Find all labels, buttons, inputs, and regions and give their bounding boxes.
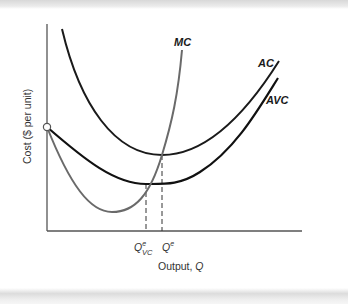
qe-tick-label: Qe [162, 240, 174, 253]
qvc-tick-label: QeVC [134, 240, 153, 257]
ac-label: AC [257, 57, 275, 69]
x-axis-title: Output, Q [158, 260, 204, 272]
cost-curves-diagram: MC AC AVC QeVC Qe Output, Q Cost ($ per … [0, 0, 348, 304]
avc-curve [47, 78, 278, 184]
mc-label: MC [174, 36, 192, 48]
y-axis-title: Cost ($ per unit) [21, 89, 33, 164]
open-circle-marker [43, 123, 50, 130]
ac-curve [62, 29, 279, 155]
avc-label: AVC [265, 94, 289, 106]
bottom-frame-band [0, 288, 348, 304]
